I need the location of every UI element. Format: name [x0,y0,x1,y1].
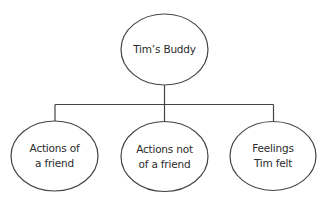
child-node-label-line: Feelings [252,141,293,156]
child-node-actions-not-of-a-friend: Actions not of a friend [121,122,208,192]
child-node-label-line: Actions of [30,141,80,156]
child-node-feelings-tim-felt: Feelings Tim felt [230,122,316,191]
child-node-actions-of-a-friend: Actions of a friend [11,121,98,191]
concept-map-diagram: Tim’s Buddy Actions of a friend Actions … [0,0,328,203]
child-node-label: Actions of a friend [30,141,80,171]
root-node-label: Tim’s Buddy [133,42,196,57]
child-node-label: Feelings Tim felt [252,141,293,171]
child-node-label-line: of a friend [136,157,193,172]
connector-lines [55,85,274,122]
root-node: Tim’s Buddy [121,14,208,85]
child-node-label-line: a friend [30,156,80,171]
child-node-label-line: Actions not [136,142,193,157]
child-node-label: Actions not of a friend [136,142,193,172]
child-node-label-line: Tim felt [252,156,293,171]
root-node-label-line: Tim’s Buddy [133,42,196,57]
